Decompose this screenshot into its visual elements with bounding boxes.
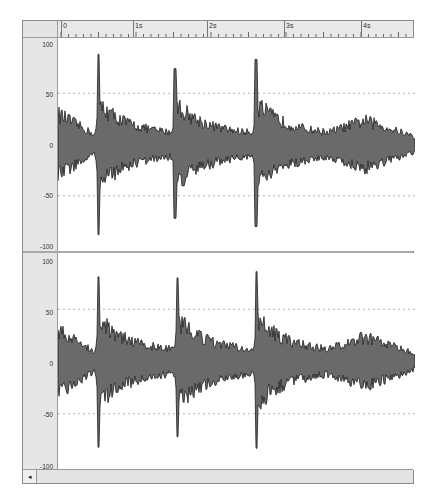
ruler-label-2: 2s: [209, 22, 216, 29]
axis-label-ch1-neg100: -100: [40, 243, 53, 250]
ruler-major-tick: [284, 21, 285, 37]
ruler-label-1: 1s: [135, 22, 142, 29]
waveform-path: [58, 54, 415, 234]
axis-label-ch1-neg50: -50: [44, 192, 53, 199]
time-ruler[interactable]: 01s2s3s4s: [23, 21, 413, 38]
axis-label-ch1-100: 100: [42, 41, 53, 48]
ruler-major-tick: [133, 21, 134, 37]
ruler-label-4: 4s: [363, 22, 370, 29]
horizontal-scrollbar[interactable]: ◂: [23, 469, 413, 483]
axis-label-ch2-100: 100: [42, 258, 53, 265]
waveform-path: [58, 272, 415, 449]
ruler-label-0: 0: [63, 22, 67, 29]
axis-label-ch1-50: 50: [46, 91, 53, 98]
channel-2-waveform[interactable]: [58, 253, 415, 470]
ruler-major-tick: [207, 21, 208, 37]
channel-1-waveform[interactable]: [58, 38, 415, 251]
axis-label-ch1-0: 0: [49, 142, 53, 149]
axis-label-ch2-50: 50: [46, 309, 53, 316]
amplitude-gutter: 100 50 0 -50 -100 100 50 0 -50 -100: [23, 38, 58, 470]
axis-label-ch2-neg50: -50: [44, 411, 53, 418]
ruler-label-3: 3s: [286, 22, 293, 29]
axis-label-ch2-0: 0: [49, 360, 53, 367]
ruler-major-tick: [61, 21, 62, 37]
ruler-major-tick: [361, 21, 362, 37]
scroll-left-arrow-icon[interactable]: ◂: [23, 470, 37, 483]
ruler-ticks: [23, 21, 415, 37]
scroll-track[interactable]: [37, 470, 413, 483]
waveform-editor: 01s2s3s4s 100 50 0 -50 -100 100 50 0 -50…: [22, 20, 414, 484]
